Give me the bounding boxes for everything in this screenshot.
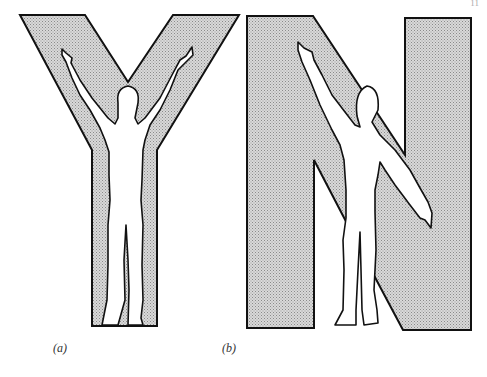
figure-canvas xyxy=(0,0,487,377)
panel-label-b: (b) xyxy=(222,341,236,356)
page-number: 11 xyxy=(470,0,479,8)
panel-label-a: (a) xyxy=(53,341,67,356)
